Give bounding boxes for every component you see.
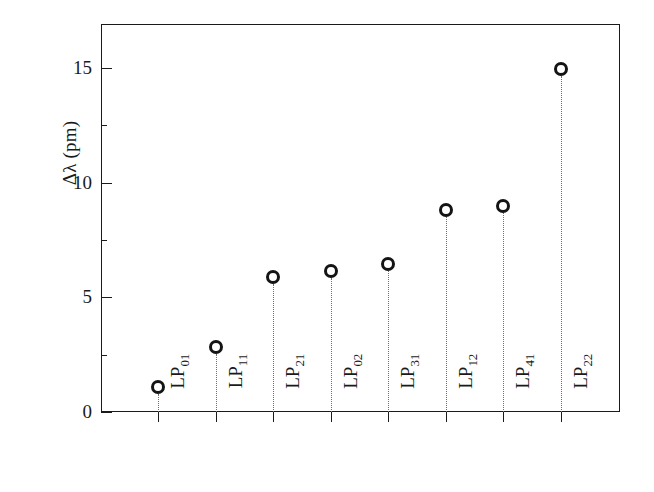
x-tick (158, 412, 159, 422)
x-tick-label-lp02: LP02 (341, 354, 361, 428)
y-tick-minor (101, 355, 107, 356)
x-tick (331, 412, 332, 422)
x-tick-label-lp12: LP12 (456, 354, 476, 428)
x-tick (503, 412, 504, 422)
x-tick-label-lp31: LP31 (398, 354, 418, 428)
stem-line (388, 271, 389, 412)
y-axis-label: Δλ (pm) (59, 73, 85, 233)
y-tick-major (101, 297, 112, 298)
y-tick-minor (101, 240, 107, 241)
data-point-lp22 (554, 62, 568, 76)
x-tick (216, 412, 217, 422)
x-tick-label-lp01: LP01 (168, 354, 188, 428)
y-tick-label: 15 (52, 58, 92, 77)
stem-line (331, 278, 332, 412)
y-tick-label: 5 (52, 287, 92, 306)
data-point-lp12 (439, 203, 453, 217)
x-tick-label-lp21: LP21 (283, 354, 303, 428)
stem-line (503, 213, 504, 412)
data-point-lp02 (324, 264, 338, 278)
data-point-lp21 (266, 270, 280, 284)
x-tick (446, 412, 447, 422)
x-tick (561, 412, 562, 422)
x-tick (273, 412, 274, 422)
stem-line (446, 217, 447, 412)
stem-line (273, 284, 274, 412)
data-point-lp01 (151, 380, 165, 394)
chart-figure: Δλ (pm) 051015 LP01LP11LP21LP02LP31LP12L… (0, 0, 654, 492)
x-tick-label-lp11: LP11 (226, 354, 246, 428)
x-tick-label-lp41: LP41 (513, 354, 533, 428)
stem-line (216, 354, 217, 412)
y-tick-label: 10 (52, 173, 92, 192)
y-tick-major (101, 412, 112, 413)
x-tick-label-lp22: LP22 (571, 354, 591, 428)
data-point-lp41 (496, 199, 510, 213)
y-tick-label: 0 (52, 402, 92, 421)
stem-line (158, 394, 159, 412)
y-tick-major (101, 68, 112, 69)
y-tick-minor (101, 125, 107, 126)
y-tick-major (101, 183, 112, 184)
x-tick (388, 412, 389, 422)
stem-line (561, 76, 562, 412)
data-point-lp11 (209, 340, 223, 354)
